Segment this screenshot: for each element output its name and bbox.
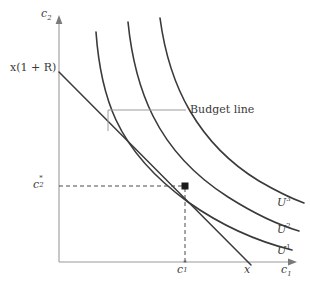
optimum-point-marker	[182, 183, 189, 190]
indifference-curves-group	[96, 18, 304, 250]
indifference-curve-u2	[128, 22, 299, 231]
optimum-c2-label: c*2	[33, 179, 39, 190]
optimum-guides-group	[59, 186, 185, 261]
budget-line-label: Budget line	[190, 104, 254, 115]
optimum-c1-label: c*1	[177, 264, 183, 275]
y-intercept-label: x(1 + R)	[10, 62, 56, 73]
x-axis-label: c1	[281, 264, 292, 278]
axes-group	[56, 15, 297, 265]
curve-label-u1: U1	[277, 244, 291, 256]
x-intercept-tick-label: x	[244, 264, 250, 275]
budget-line	[59, 72, 251, 265]
y-axis-label: c2	[41, 8, 52, 22]
y-axis-arrowhead	[56, 15, 63, 24]
economics-diagram: c2 c1 x(1 + R) Budget line U3 U2 U1 c*2 …	[0, 0, 310, 290]
diagram-canvas	[0, 0, 310, 290]
curve-label-u3: U3	[277, 196, 291, 208]
curve-label-u2: U2	[277, 223, 291, 235]
